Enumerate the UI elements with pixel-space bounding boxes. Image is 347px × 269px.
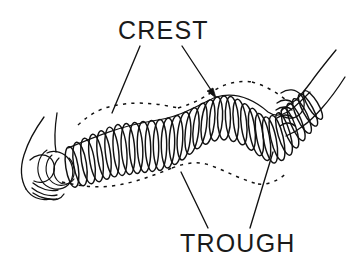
crest-leader-right [182, 46, 216, 98]
left-hand-icon [22, 113, 64, 200]
trough-leader-right [250, 152, 273, 228]
figure-canvas: CREST TROUGH [0, 0, 347, 269]
crest-leader-left [112, 46, 140, 113]
crest-label: CREST [118, 16, 209, 44]
trough-label: TROUGH [180, 229, 296, 257]
crest-arrowhead [207, 88, 216, 98]
slinky-wave-figure: CREST TROUGH [0, 0, 347, 269]
trough-leader-left [181, 172, 208, 228]
